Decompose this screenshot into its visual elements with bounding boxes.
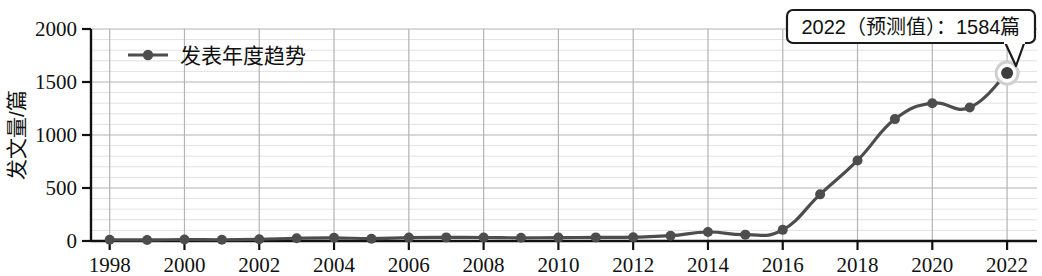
x-axis-tick-label: 2010 xyxy=(537,253,579,276)
data-point-marker xyxy=(329,233,339,243)
data-point-marker xyxy=(479,233,489,243)
data-point-marker xyxy=(965,102,975,112)
data-point-marker xyxy=(179,235,189,245)
data-point-marker xyxy=(703,227,713,237)
x-axis-tick-label: 2004 xyxy=(313,253,356,276)
data-point-marker xyxy=(815,189,825,199)
y-axis-title: 发文量/篇 xyxy=(5,90,28,180)
data-point-marker xyxy=(553,233,563,243)
data-point-marker xyxy=(366,234,376,244)
x-axis-tick-label: 1998 xyxy=(89,253,131,276)
data-point-marker xyxy=(927,98,937,108)
data-point-marker xyxy=(853,155,863,165)
x-axis-tick-label: 2016 xyxy=(762,253,804,276)
data-point-marker xyxy=(890,114,900,124)
x-axis-tick-labels: 1998200020022004200620082010201220142016… xyxy=(89,253,1028,276)
y-axis-tick-label: 2000 xyxy=(35,17,77,41)
x-axis-tick-label: 2022 xyxy=(986,253,1028,276)
data-point-marker xyxy=(404,233,414,243)
data-point-marker xyxy=(778,225,788,235)
x-axis-tick-label: 2008 xyxy=(463,253,505,276)
y-axis-tick-label: 1000 xyxy=(35,123,77,147)
data-point-marker xyxy=(254,234,264,244)
x-axis-tick-label: 2014 xyxy=(687,253,730,276)
data-point-marker xyxy=(740,230,750,240)
data-point-marker xyxy=(142,235,152,245)
chart-canvas: 0500100015002000 19982000200220042006200… xyxy=(0,0,1042,276)
publication-trend-chart: 0500100015002000 19982000200220042006200… xyxy=(0,0,1042,276)
annotation-pointer-joint xyxy=(1004,40,1025,44)
legend-label: 发表年度趋势 xyxy=(180,44,306,67)
data-point-marker xyxy=(666,231,676,241)
data-point-marker xyxy=(516,233,526,243)
y-axis-tick-label: 1500 xyxy=(35,70,77,94)
x-axis-tick-label: 2000 xyxy=(163,253,205,276)
x-axis-tick-label: 2012 xyxy=(612,253,654,276)
y-axis-ticks xyxy=(82,29,91,241)
data-point-marker xyxy=(441,232,451,242)
data-point-marker xyxy=(217,235,227,245)
data-point-marker xyxy=(105,235,115,245)
data-point-marker xyxy=(292,233,302,243)
legend-marker-icon xyxy=(143,50,153,60)
highlight-core-marker xyxy=(1001,67,1013,79)
annotation-text: 2022（预测值）：1584篇 xyxy=(802,16,1021,38)
y-axis-tick-label: 500 xyxy=(46,176,78,200)
data-point-marker xyxy=(628,232,638,242)
x-axis-tick-label: 2018 xyxy=(837,253,879,276)
y-axis-tick-labels: 0500100015002000 xyxy=(35,17,77,253)
x-axis-tick-label: 2006 xyxy=(388,253,430,276)
x-axis-tick-label: 2002 xyxy=(238,253,280,276)
data-point-marker xyxy=(591,232,601,242)
y-axis-tick-label: 0 xyxy=(67,229,78,253)
x-axis-tick-label: 2020 xyxy=(911,253,953,276)
